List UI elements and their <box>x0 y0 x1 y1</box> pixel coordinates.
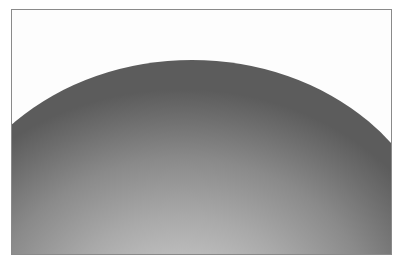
image-canvas <box>0 0 404 267</box>
photo-frame <box>11 9 392 255</box>
dome-shape <box>11 60 392 255</box>
